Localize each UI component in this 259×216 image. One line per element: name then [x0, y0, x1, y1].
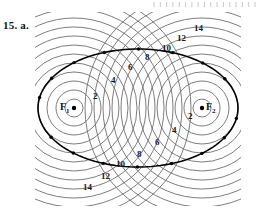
ellipse-point	[200, 152, 203, 155]
radius-label: 10	[162, 44, 171, 53]
radius-label: 2	[93, 92, 98, 101]
radius-label: 4	[172, 126, 177, 135]
radius-label: 14	[83, 183, 92, 192]
focus-dot	[72, 106, 76, 110]
radius-label: 8	[137, 150, 142, 159]
ellipse-point	[223, 136, 226, 139]
ellipse-point	[137, 47, 140, 50]
radius-label: 8	[145, 53, 150, 62]
radius-label: 10	[116, 160, 125, 169]
diagram-svg	[0, 0, 259, 216]
ellipse-point	[201, 61, 204, 64]
ellipse-point	[102, 162, 105, 165]
ellipse-point	[49, 136, 52, 139]
radius-label: 14	[194, 24, 203, 33]
radius-label: 2	[188, 112, 193, 121]
concentric-circles-focus-1	[0, 0, 191, 216]
focus-label-f2: F2	[206, 102, 216, 115]
ellipse-construction-figure	[0, 0, 259, 216]
ellipse-point	[38, 96, 41, 99]
ellipse-point	[171, 51, 174, 54]
ellipse-point	[170, 162, 173, 165]
concentric-circles-focus-2	[85, 0, 259, 216]
focus-index: 1	[66, 107, 70, 115]
radius-label: 6	[155, 138, 160, 147]
concentric-circle	[0, 9, 173, 207]
figure-stage: 15. a. 24681012142468101214 F1F2	[0, 0, 259, 216]
radius-label: 12	[101, 172, 110, 181]
radius-label: 4	[111, 76, 116, 85]
radius-label: 12	[177, 34, 186, 43]
ellipse-point	[235, 117, 238, 120]
ellipse-point	[103, 51, 106, 54]
concentric-circle	[0, 0, 191, 216]
ellipse-point	[223, 77, 226, 80]
radius-label: 6	[128, 63, 133, 72]
focus-label-f1: F1	[60, 102, 70, 115]
focus-dot	[200, 106, 204, 110]
ellipse-point	[72, 61, 75, 64]
focus-index: 2	[212, 107, 216, 115]
ellipse-point	[72, 151, 75, 154]
ellipse-point	[50, 77, 53, 80]
ellipse-point	[136, 165, 139, 168]
